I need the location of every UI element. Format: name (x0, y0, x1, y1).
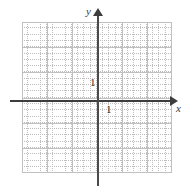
y-axis-label: y (86, 6, 91, 17)
y-axis-arrow-icon (93, 8, 103, 16)
x-axis-label: x (176, 103, 181, 114)
coordinate-plane-figure: x y 1 1 (0, 0, 185, 191)
x-axis-tick-label-1: 1 (106, 104, 112, 115)
y-axis-line (97, 14, 99, 186)
x-axis-line (10, 100, 172, 102)
y-axis-tick-label-1: 1 (90, 77, 96, 88)
